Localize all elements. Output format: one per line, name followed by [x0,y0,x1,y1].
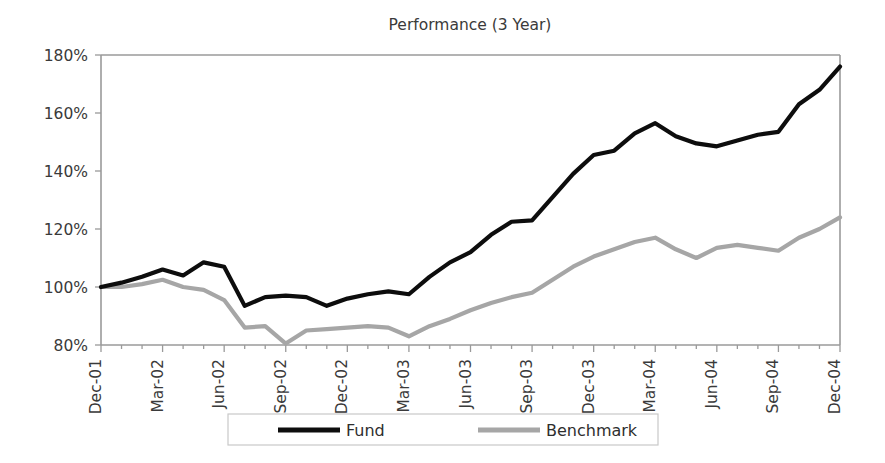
y-tick-label: 100% [44,279,88,297]
chart-title: Performance (3 Year) [389,16,552,34]
performance-chart: Performance (3 Year) 80%100%120%140%160%… [0,0,885,463]
x-tick-label: Dec-02 [333,359,351,414]
series-line-fund [101,67,840,306]
x-axis-labels: Dec-01Mar-02Jun-02Sep-02Dec-02Mar-03Jun-… [87,359,844,414]
x-tick-label: Jun-02 [210,359,228,410]
x-axis-ticks [101,345,840,352]
x-tick-label: Dec-01 [87,359,105,414]
x-tick-label: Sep-02 [272,359,290,414]
y-axis-ticks [95,55,101,345]
y-tick-label: 160% [44,105,88,123]
y-tick-label: 80% [54,337,88,355]
x-tick-label: Mar-04 [641,359,659,413]
x-tick-label: Jun-03 [457,359,475,410]
chart-canvas: Performance (3 Year) 80%100%120%140%160%… [0,0,885,463]
x-tick-label: Dec-03 [580,359,598,414]
y-tick-label: 180% [44,47,88,65]
legend-label-fund: Fund [346,421,385,440]
chart-legend: Fund Benchmark [228,414,658,445]
y-tick-label: 140% [44,163,88,181]
plot-frame [101,55,840,345]
y-axis-labels: 80%100%120%140%160%180% [44,47,88,355]
legend-label-benchmark: Benchmark [546,421,638,440]
series-line-benchmark [101,217,840,343]
x-tick-label: Mar-02 [149,359,167,413]
x-tick-label: Sep-04 [764,359,782,414]
y-tick-label: 120% [44,221,88,239]
x-tick-label: Sep-03 [518,359,536,414]
x-tick-label: Dec-04 [826,359,844,414]
x-tick-label: Jun-04 [703,359,721,410]
x-tick-label: Mar-03 [395,359,413,413]
